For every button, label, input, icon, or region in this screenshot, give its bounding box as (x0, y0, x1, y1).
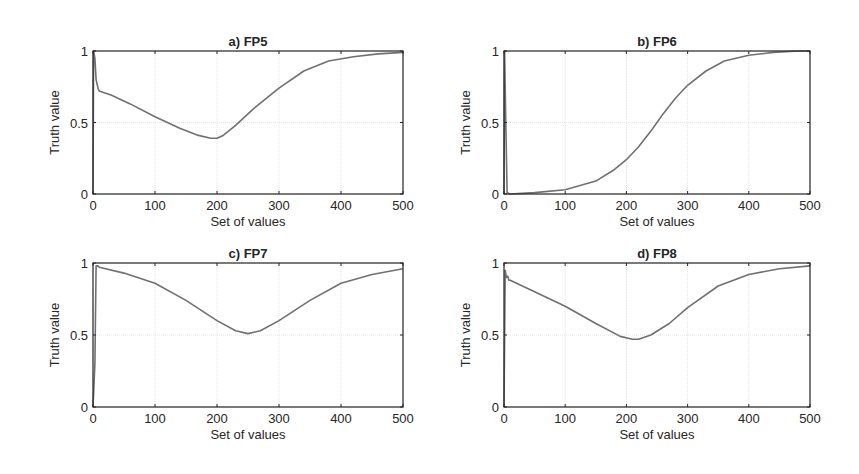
subplot-b: 010020030040050000.51b) FP6Set of values… (458, 34, 821, 229)
subplot-title: d) FP8 (637, 246, 677, 261)
grid (93, 263, 403, 407)
grid (504, 263, 810, 407)
x-axis-label: Set of values (210, 214, 286, 229)
x-tick-label: 500 (799, 198, 821, 213)
x-tick-label: 300 (268, 411, 290, 426)
x-tick-label: 300 (677, 198, 699, 213)
data-line (93, 266, 403, 407)
x-tick-label: 0 (89, 198, 96, 213)
subplot-title: a) FP5 (228, 34, 267, 49)
x-tick-label: 0 (500, 411, 507, 426)
x-tick-label: 500 (392, 411, 414, 426)
x-tick-label: 0 (89, 411, 96, 426)
subplot-a: 010020030040050000.51a) FP5Set of values… (47, 34, 414, 229)
x-tick-label: 400 (330, 411, 352, 426)
y-tick-label: 0.5 (481, 116, 499, 131)
x-axis-label: Set of values (210, 427, 286, 442)
grid (93, 51, 403, 194)
y-tick-label: 0.5 (481, 328, 499, 343)
y-axis-label: Truth value (458, 303, 473, 368)
figure: 010020030040050000.51a) FP5Set of values… (0, 0, 859, 474)
x-tick-label: 200 (206, 198, 228, 213)
data-line (504, 266, 810, 407)
y-tick-label: 0 (81, 400, 88, 415)
y-tick-label: 1 (492, 44, 499, 59)
x-tick-label: 400 (738, 411, 760, 426)
x-tick-label: 400 (330, 198, 352, 213)
x-axis-label: Set of values (619, 427, 695, 442)
subplot-d: 010020030040050000.51d) FP8Set of values… (458, 246, 821, 442)
y-tick-label: 1 (81, 44, 88, 59)
y-tick-label: 0 (492, 187, 499, 202)
x-tick-label: 300 (268, 198, 290, 213)
y-axis-label: Truth value (47, 90, 62, 155)
x-tick-label: 500 (799, 411, 821, 426)
y-tick-label: 0.5 (70, 328, 88, 343)
x-tick-label: 200 (616, 411, 638, 426)
x-tick-label: 200 (206, 411, 228, 426)
y-tick-label: 1 (492, 256, 499, 271)
x-tick-label: 500 (392, 198, 414, 213)
x-tick-label: 100 (554, 411, 576, 426)
y-tick-label: 0 (81, 187, 88, 202)
x-tick-label: 100 (144, 198, 166, 213)
x-tick-label: 200 (616, 198, 638, 213)
x-axis-label: Set of values (619, 214, 695, 229)
subplot-title: c) FP7 (228, 246, 267, 261)
y-tick-label: 1 (81, 256, 88, 271)
y-tick-label: 0.5 (70, 116, 88, 131)
x-tick-label: 300 (677, 411, 699, 426)
x-tick-label: 400 (738, 198, 760, 213)
x-tick-label: 0 (500, 198, 507, 213)
subplot-c: 010020030040050000.51c) FP7Set of values… (47, 246, 414, 442)
subplot-title: b) FP6 (637, 34, 677, 49)
y-tick-label: 0 (492, 400, 499, 415)
y-axis-label: Truth value (47, 303, 62, 368)
x-tick-label: 100 (144, 411, 166, 426)
x-tick-label: 100 (554, 198, 576, 213)
y-axis-label: Truth value (458, 90, 473, 155)
